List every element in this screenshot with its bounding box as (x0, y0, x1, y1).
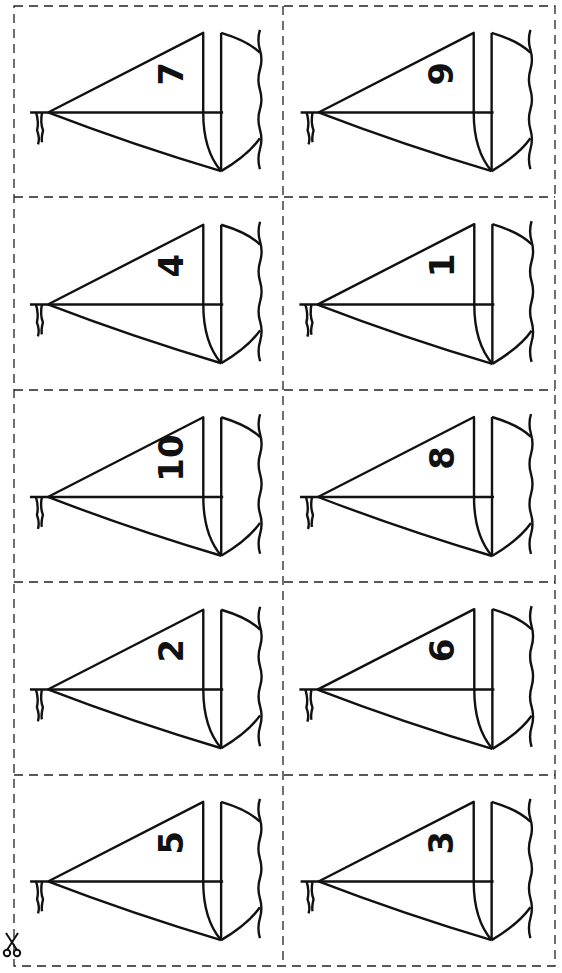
sailboat-card: 2 (14, 582, 283, 775)
sailboat-card: 9 (283, 6, 555, 197)
card-number: 10 (152, 435, 191, 482)
sailboat-icon: 6 (283, 582, 555, 775)
sailboat-icon: 4 (14, 197, 283, 390)
card-number: 6 (422, 638, 462, 662)
sailboat-card: 4 (14, 197, 283, 390)
card-number: 3 (422, 831, 461, 855)
sailboat-card: 7 (14, 6, 283, 197)
sailboat-icon: 9 (283, 6, 555, 197)
sailboat-icon: 1 (283, 197, 555, 390)
sailboat-icon: 3 (283, 775, 555, 966)
sailboat-icon: 10 (14, 390, 283, 582)
sailboat-icon: 8 (283, 390, 555, 582)
sailboat-card: 3 (283, 775, 555, 966)
sailboat-card: 8 (283, 390, 555, 582)
sailboat-card: 1 (283, 197, 555, 390)
card-number: 1 (422, 253, 462, 277)
sailboat-card: 5 (14, 775, 283, 966)
sailboat-card: 6 (283, 582, 555, 775)
card-number: 7 (152, 62, 191, 86)
card-number: 2 (152, 639, 191, 663)
sailboat-icon: 5 (14, 775, 283, 966)
sailboat-icon: 2 (14, 582, 283, 775)
card-number: 8 (422, 446, 462, 470)
card-number: 9 (422, 62, 461, 86)
sailboat-icon: 7 (14, 6, 283, 197)
sailboat-card: 10 (14, 390, 283, 582)
card-number: 5 (152, 831, 191, 855)
card-number: 4 (152, 254, 191, 278)
scissors-icon (2, 930, 22, 960)
